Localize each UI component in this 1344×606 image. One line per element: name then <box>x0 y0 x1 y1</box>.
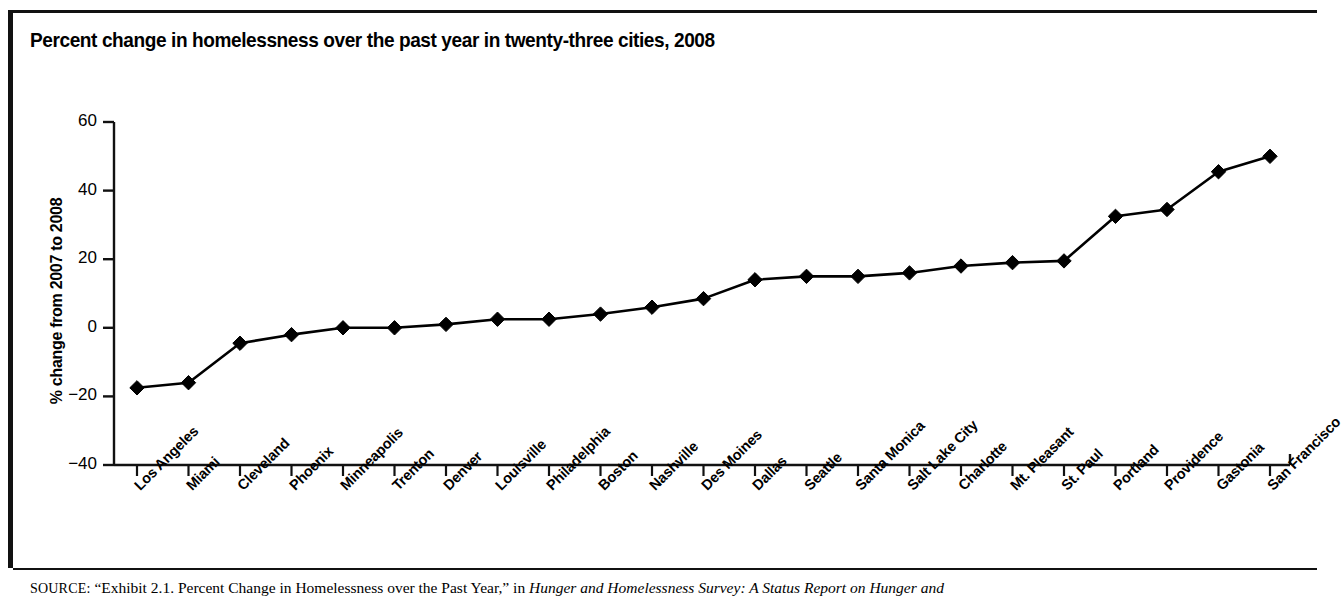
source-publication-title: Hunger and Homelessness Survey: A Status… <box>529 579 944 596</box>
data-point-marker <box>645 300 659 314</box>
data-point-marker <box>439 317 453 331</box>
data-point-marker <box>130 381 144 395</box>
data-point-marker <box>851 269 865 283</box>
data-series-line <box>137 156 1270 388</box>
data-point-marker <box>748 273 762 287</box>
data-point-marker <box>542 312 556 326</box>
data-point-marker <box>1263 149 1277 163</box>
data-point-marker <box>387 321 401 335</box>
y-axis-tick-label: 20 <box>43 248 97 268</box>
y-axis-tick-label: 60 <box>43 111 97 131</box>
data-point-marker <box>954 259 968 273</box>
data-point-marker <box>284 327 298 341</box>
source-exhibit-title: “Exhibit 2.1. Percent Change in Homeless… <box>94 579 509 596</box>
data-point-marker <box>1005 255 1019 269</box>
source-note: SOURCE: “Exhibit 2.1. Percent Change in … <box>30 578 1310 598</box>
data-point-marker <box>490 312 504 326</box>
y-axis-tick-label: 40 <box>43 180 97 200</box>
y-axis-tick-label: −20 <box>43 385 97 405</box>
y-axis-tick-label: −40 <box>43 454 97 474</box>
data-point-marker <box>696 291 710 305</box>
source-connector: in <box>513 579 525 596</box>
data-markers <box>130 149 1277 395</box>
data-point-marker <box>336 321 350 335</box>
data-point-marker <box>902 266 916 280</box>
series-polyline <box>137 156 1270 388</box>
source-label: SOURCE: <box>30 581 91 596</box>
data-point-marker <box>593 307 607 321</box>
y-axis-tick-label: 0 <box>43 317 97 337</box>
data-point-marker <box>799 269 813 283</box>
